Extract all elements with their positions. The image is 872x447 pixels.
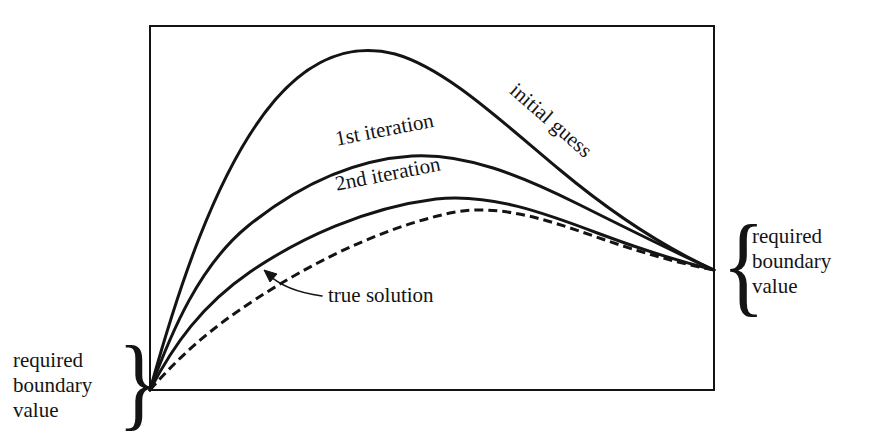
right-boundary-line-3: value — [752, 274, 831, 299]
right-boundary-line-2: boundary — [752, 249, 831, 274]
plot-frame — [150, 26, 714, 390]
left-boundary-line-2: boundary — [13, 373, 92, 398]
left-boundary-line-3: value — [13, 398, 92, 423]
left-boundary-label: required boundary value — [13, 348, 92, 422]
curve-label-true-solution: true solution — [328, 283, 434, 308]
left-boundary-line-1: required — [13, 348, 92, 373]
right-boundary-line-1: required — [752, 224, 831, 249]
left-boundary-brace: } — [118, 330, 159, 434]
right-boundary-label: required boundary value — [752, 224, 831, 298]
